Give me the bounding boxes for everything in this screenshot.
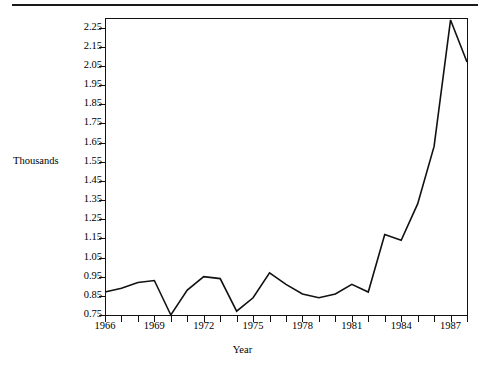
x-tick-label: 1987 <box>440 320 461 332</box>
y-tick-label: 0.75 <box>84 308 102 320</box>
y-tick-label: 2.05 <box>84 59 102 71</box>
x-tick-mark <box>418 316 419 322</box>
y-tick-label: 1.05 <box>84 251 102 263</box>
x-tick-mark <box>319 316 320 322</box>
y-tick-label: 1.55 <box>84 155 102 167</box>
x-tick-label: 1966 <box>95 320 116 332</box>
plot-area: 2.252.152.051.951.851.751.651.551.451.35… <box>105 18 468 316</box>
y-tick-label: 1.85 <box>84 97 102 109</box>
y-axis-label: Thousands <box>13 155 85 167</box>
x-tick-mark <box>270 316 271 322</box>
x-tick-label: 1969 <box>144 320 165 332</box>
y-tick-label: 1.25 <box>84 212 102 224</box>
x-tick-mark <box>187 316 188 322</box>
x-tick-label: 1978 <box>292 320 313 332</box>
x-tick-label: 1984 <box>391 320 412 332</box>
y-tick-label: 0.85 <box>84 289 102 301</box>
y-tick-label: 1.15 <box>84 231 102 243</box>
x-tick-mark <box>138 316 139 322</box>
y-tick-label: 0.95 <box>84 270 102 282</box>
y-tick-label: 1.65 <box>84 136 102 148</box>
x-tick-mark <box>121 316 122 322</box>
x-tick-mark <box>368 316 369 322</box>
x-tick-mark <box>434 316 435 322</box>
x-tick-mark <box>385 316 386 322</box>
x-tick-mark <box>467 316 468 322</box>
x-tick-mark <box>286 316 287 322</box>
y-tick-label: 2.25 <box>84 21 102 33</box>
x-tick-label: 1981 <box>341 320 362 332</box>
header-divider <box>12 4 478 6</box>
chart-figure: Thousands 2.252.152.051.951.851.751.651.… <box>0 0 485 367</box>
y-tick-label: 1.35 <box>84 193 102 205</box>
x-tick-mark <box>220 316 221 322</box>
x-tick-mark <box>237 316 238 322</box>
x-tick-label: 1972 <box>193 320 214 332</box>
x-axis-label: Year <box>0 344 485 356</box>
series-line-thousands <box>105 18 468 316</box>
y-tick-label: 2.15 <box>84 40 102 52</box>
y-tick-label: 1.75 <box>84 116 102 128</box>
x-tick-label: 1975 <box>243 320 264 332</box>
y-tick-label: 1.95 <box>84 78 102 90</box>
x-tick-mark <box>171 316 172 322</box>
y-tick-label: 1.45 <box>84 174 102 186</box>
x-tick-mark <box>335 316 336 322</box>
